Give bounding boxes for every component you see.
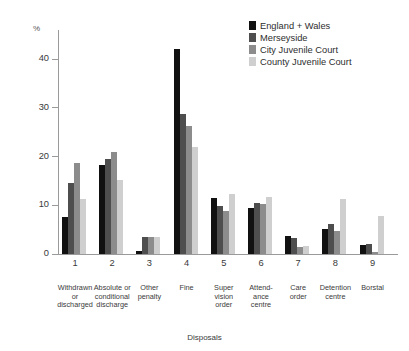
- x-category-label-line: centre: [307, 293, 363, 302]
- legend-item-label: County Juvenile Court: [260, 57, 351, 67]
- x-tick-label: 5: [204, 258, 244, 268]
- x-category-label-line: penalty: [121, 293, 177, 302]
- x-axis-line: [58, 254, 398, 255]
- bar-group: [62, 163, 86, 254]
- x-tick-label: 9: [353, 258, 393, 268]
- legend-item-label: England + Wales: [260, 21, 330, 31]
- x-tick-label: 2: [92, 258, 132, 268]
- bar-group: [99, 152, 123, 254]
- bar: [266, 197, 272, 254]
- legend-item-label: City Juvenile Court: [260, 45, 338, 55]
- bar-group: [285, 236, 309, 254]
- bar: [340, 199, 346, 254]
- x-category-label: Borstal: [345, 284, 401, 293]
- bar: [229, 194, 235, 254]
- x-tick-label: 6: [241, 258, 281, 268]
- y-tick-label: 20: [39, 151, 49, 161]
- bar-group: [211, 194, 235, 254]
- legend-swatch-icon: [249, 45, 256, 54]
- legend-swatch-icon: [249, 57, 256, 66]
- bar-group: [174, 49, 198, 254]
- bar: [192, 147, 198, 254]
- bar: [303, 246, 309, 254]
- x-tick-label: 8: [315, 258, 355, 268]
- bar: [154, 237, 160, 254]
- legend-item-label: Merseyside: [260, 33, 308, 43]
- bar-group: [248, 197, 272, 254]
- bar-chart: % 010203040 123456789 Withdrawnordischar…: [0, 0, 409, 351]
- y-tick-label: 30: [39, 102, 49, 112]
- y-tick-label: 10: [39, 199, 49, 209]
- legend-item: Merseyside: [249, 32, 351, 43]
- bar-group: [136, 237, 160, 254]
- bar: [117, 180, 123, 255]
- x-category-label-line: Borstal: [345, 284, 401, 293]
- x-tick-label: 4: [167, 258, 207, 268]
- legend-item: England + Wales: [249, 20, 351, 31]
- x-tick-label: 7: [278, 258, 318, 268]
- legend-swatch-icon: [249, 21, 256, 30]
- y-axis-unit-label: %: [33, 24, 40, 33]
- x-axis-title: Disposals: [0, 333, 409, 342]
- x-category-label-line: centre: [233, 301, 289, 310]
- bar-group: [360, 216, 384, 254]
- x-tick-label: 1: [55, 258, 95, 268]
- chart-legend: England + WalesMerseysideCity Juvenile C…: [249, 20, 351, 67]
- x-tick-label: 3: [129, 258, 169, 268]
- y-tick-label: 40: [39, 53, 49, 63]
- bar: [378, 216, 384, 254]
- legend-item: County Juvenile Court: [249, 56, 351, 67]
- legend-swatch-icon: [249, 33, 256, 42]
- bar-group: [322, 199, 346, 254]
- y-tick-label: 0: [44, 248, 49, 258]
- x-category-label-line: discharge: [84, 301, 140, 310]
- legend-item: City Juvenile Court: [249, 44, 351, 55]
- bar: [80, 199, 86, 254]
